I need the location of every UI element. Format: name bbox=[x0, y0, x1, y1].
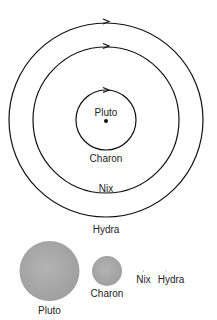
hydra-dot bbox=[165, 270, 166, 271]
pluto-size-label: Pluto bbox=[38, 305, 61, 316]
charon-size-label: Charon bbox=[91, 288, 124, 299]
charon-orbit-label: Charon bbox=[90, 153, 123, 164]
pluto-disk bbox=[20, 241, 80, 301]
arrow-icon bbox=[103, 44, 109, 49]
orbit-nix bbox=[33, 44, 179, 194]
hydra-size-label: Hydra bbox=[158, 274, 185, 285]
nix-size-label: Nix bbox=[136, 274, 150, 285]
nix-orbit-label: Nix bbox=[99, 183, 113, 194]
pluto-system-diagram: Pluto Charon Nix Hydra Pluto Charon Nix … bbox=[0, 0, 217, 320]
pluto-center-label: Pluto bbox=[95, 107, 118, 118]
hydra-orbit-label: Hydra bbox=[93, 224, 120, 235]
pluto-dot bbox=[104, 119, 108, 123]
charon-disk bbox=[92, 256, 122, 286]
size-comparison: Pluto Charon Nix Hydra bbox=[20, 241, 185, 316]
orbit-charon bbox=[76, 88, 136, 151]
nix-dot bbox=[143, 270, 144, 271]
